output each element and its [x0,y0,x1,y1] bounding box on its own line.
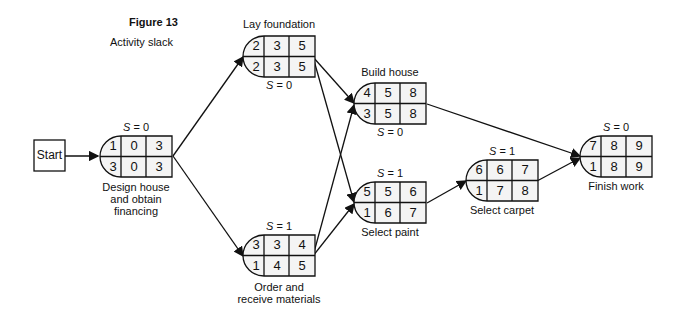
node-paint-slack: S = 1 [360,167,420,179]
node-paint-top-cell: 5 [376,182,400,202]
node-design-bottom-cell: 3 [103,157,123,177]
node-foundation-top-cell: 5 [290,36,314,56]
node-finish-bottom-cell: 1 [583,157,603,177]
node-build-top-cell: 4 [357,83,377,103]
node-foundation-top-cell: 3 [265,36,289,56]
node-paint-bottom-cell: 6 [376,203,400,223]
start-label: Start [34,149,65,161]
node-build-slack: S = 0 [360,126,420,138]
node-carpet-slack: S = 1 [472,145,532,157]
node-design-top-cell: 3 [147,136,171,156]
node-finish-bottom-cell: 9 [627,157,651,177]
node-build-bottom-cell: 5 [376,104,400,124]
node-design-slack: S = 0 [106,121,166,133]
node-finish-label: Finish work [556,180,676,192]
node-foundation-bottom-cell: 5 [290,57,314,77]
node-carpet-label: Select carpet [442,204,562,216]
node-foundation-top-cell: 2 [246,36,266,56]
node-carpet-bottom-cell: 8 [513,181,537,201]
node-carpet-bottom-cell: 1 [469,181,489,201]
node-finish-top-cell: 7 [583,136,603,156]
node-materials-bottom-cell: 4 [265,256,289,276]
node-design-top-cell: 1 [103,136,123,156]
node-materials-top-cell: 3 [246,235,266,255]
node-design-bottom-cell: 0 [122,157,146,177]
node-materials-bottom-cell: 5 [290,256,314,276]
node-materials-slack: S = 1 [249,220,309,232]
node-carpet-top-cell: 6 [469,160,489,180]
node-finish-bottom-cell: 8 [602,157,626,177]
node-build-label: Build house [330,66,450,78]
node-build-top-cell: 8 [401,83,425,103]
node-carpet-top-cell: 7 [513,160,537,180]
node-paint-label: Select paint [330,226,450,238]
node-foundation-slack: S = 0 [249,79,309,91]
node-materials-label: Order andreceive materials [219,281,339,305]
node-build-top-cell: 5 [376,83,400,103]
node-paint-bottom-cell: 1 [357,203,377,223]
node-finish-top-cell: 8 [602,136,626,156]
node-design-label: Design houseand obtainfinancing [76,181,196,217]
node-foundation-bottom-cell: 3 [265,57,289,77]
node-foundation-label: Lay foundation [219,18,339,30]
node-materials-bottom-cell: 1 [246,256,266,276]
node-carpet-top-cell: 6 [488,160,512,180]
node-design-bottom-cell: 3 [147,157,171,177]
node-materials-top-cell: 4 [290,235,314,255]
node-build-bottom-cell: 3 [357,104,377,124]
node-paint-bottom-cell: 7 [401,203,425,223]
node-build-bottom-cell: 8 [401,104,425,124]
node-materials-top-cell: 3 [265,235,289,255]
node-foundation-bottom-cell: 2 [246,57,266,77]
node-paint-top-cell: 5 [357,182,377,202]
node-paint-top-cell: 6 [401,182,425,202]
node-finish-slack: S = 0 [586,121,646,133]
node-carpet-bottom-cell: 7 [488,181,512,201]
node-finish-top-cell: 9 [627,136,651,156]
node-design-top-cell: 0 [122,136,146,156]
